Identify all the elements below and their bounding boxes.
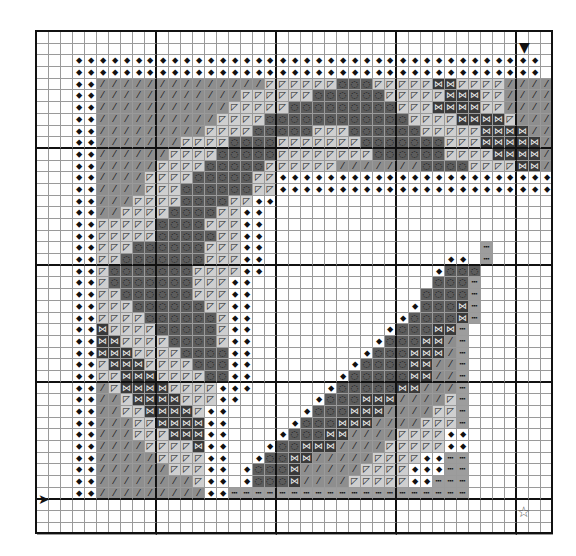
stitch-cell [409,32,421,44]
stitch-cell: ⋈ [193,418,205,430]
stitch-cell: ⬥ [85,277,97,289]
stitch-cell [337,266,349,278]
chart-row: ⬥⬥⁄⁄⁄⁄⁄⁄⁄⁄⁄◸◸◸◸◌◌◌◌◌◸◸◸◌◌◌◌◌◌◸◸◸◸◸⋈⋈⋈⋈⁄⁄ [37,126,553,138]
stitch-cell [61,453,73,465]
stitch-cell: ⬥ [85,266,97,278]
chart-row: ⬥⬥◸◸◸◸◸◌◌◌◌◸◸◸⬥⬥ [37,219,553,231]
stitch-cell: ◸ [241,90,253,102]
stitch-cell: ◌ [193,348,205,360]
stitch-cell [49,418,61,430]
stitch-cell: ◸ [409,102,421,114]
stitch-cell: ◸ [349,149,361,161]
stitch-cell: ⬥ [73,488,85,500]
stitch-cell [73,32,85,44]
stitch-cell: ◸ [457,79,469,91]
stitch-cell: ⬥ [85,301,97,313]
stitch-cell: ◌ [385,348,397,360]
stitch-cell: ⬥ [73,219,85,231]
stitch-cell: ⁄ [421,394,433,406]
stitch-cell: ⁄ [517,90,529,102]
stitch-cell: ◸ [325,161,337,173]
stitch-cell: ⬥ [85,324,97,336]
stitch-cell [61,301,73,313]
stitch-cell: ⬥ [409,55,421,67]
stitch-cell: ⬥ [229,324,241,336]
stitch-cell: ⬥ [121,55,133,67]
stitch-cell: ⁄ [97,383,109,395]
stitch-cell: ⁄ [133,453,145,465]
stitch-cell: ⁄ [109,441,121,453]
stitch-cell: ⋈ [157,383,169,395]
stitch-cell [277,32,289,44]
stitch-cell: ⋈ [457,90,469,102]
stitch-cell [517,336,529,348]
stitch-cell: ◌ [409,313,421,325]
stitch-cell [529,313,541,325]
stitch-cell: ⬥ [313,172,325,184]
stitch-cell [337,196,349,208]
stitch-cell: ⬥ [73,324,85,336]
stitch-cell: ⁄ [145,149,157,161]
stitch-cell: ⁄ [217,90,229,102]
stitch-cell [397,196,409,208]
stitch-cell [529,266,541,278]
stitch-cell: ◌ [313,102,325,114]
stitch-cell [349,266,361,278]
stitch-cell: ◸ [157,196,169,208]
stitch-cell: ⁄ [97,114,109,126]
stitch-cell [493,383,505,395]
stitch-cell: ⁄ [433,394,445,406]
stitch-cell [265,313,277,325]
stitch-cell [205,32,217,44]
stitch-cell: ⬥ [373,172,385,184]
stitch-cell [361,500,373,512]
stitch-cell: ◸ [337,137,349,149]
stitch-cell: ◌ [325,90,337,102]
stitch-cell [205,511,217,523]
stitch-cell: ⁄ [205,114,217,126]
stitch-cell [241,418,253,430]
stitch-cell: ◌ [349,90,361,102]
stitch-cell: ◌ [337,394,349,406]
stitch-cell: ◌ [325,114,337,126]
stitch-cell: ⬥ [457,254,469,266]
stitch-cell: ◸ [145,231,157,243]
stitch-cell [493,207,505,219]
stitch-cell: ◌ [337,114,349,126]
stitch-cell [61,102,73,114]
stitch-cell [325,277,337,289]
stitch-cell [49,394,61,406]
stitch-cell [541,453,553,465]
stitch-cell: ◸ [169,348,181,360]
stitch-cell: ⬥ [421,172,433,184]
stitch-cell [361,196,373,208]
stitch-cell [373,219,385,231]
stitch-cell [229,500,241,512]
stitch-cell: ◸ [181,441,193,453]
stitch-cell: ⋈ [349,418,361,430]
stitch-cell: ◸ [193,277,205,289]
stitch-cell: ⁄ [157,90,169,102]
stitch-cell [61,149,73,161]
stitch-cell: ⁄ [157,102,169,114]
stitch-cell [469,207,481,219]
stitch-cell: ◌ [445,313,457,325]
stitch-cell: ◸ [289,161,301,173]
stitch-cell [517,476,529,488]
stitch-cell [421,277,433,289]
stitch-cell [421,511,433,523]
stitch-cell: ◌ [457,266,469,278]
stitch-cell: ⬥ [97,55,109,67]
stitch-cell: ◸ [205,126,217,138]
stitch-cell: ┅ [277,488,289,500]
stitch-cell: ⬥ [505,67,517,79]
stitch-cell [361,301,373,313]
stitch-cell [325,44,337,56]
stitch-cell: ◌ [361,90,373,102]
stitch-cell: ┅ [457,359,469,371]
stitch-cell [493,488,505,500]
stitch-cell: ◸ [109,219,121,231]
stitch-cell: ⁄ [517,102,529,114]
stitch-cell: ◸ [469,137,481,149]
stitch-cell: ◸ [217,324,229,336]
